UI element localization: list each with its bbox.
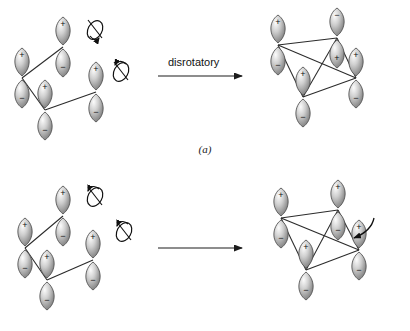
orbital-sign: − <box>303 285 308 295</box>
orbital-sign: + <box>353 50 358 60</box>
reaction-arrow-label-disrotatory: disrotatory <box>168 56 219 68</box>
rotation-arrow-left-a <box>84 18 106 42</box>
orbital-sign: − <box>334 10 339 20</box>
orbital-sign-inverted: + <box>335 182 340 192</box>
orbital-sign: + <box>93 64 98 74</box>
orbital-sign: + <box>334 53 339 63</box>
product-orbital-group-a <box>271 8 363 127</box>
orbital-sign: − <box>93 107 98 117</box>
orbital-sign: − <box>19 93 24 103</box>
product-bond-framework-b <box>281 210 359 270</box>
reactant-orbital-group-a <box>15 17 103 140</box>
panel-disrotatory: + − + − + − + − <box>0 0 410 170</box>
orbital-sign: + <box>303 242 308 252</box>
orbital-sign: + <box>19 50 24 60</box>
product-orbital-group-b <box>274 180 366 300</box>
panel-caption-a: (a) <box>0 143 410 155</box>
rotation-arrow-right-b <box>113 220 135 244</box>
orbital-sign: + <box>22 220 27 230</box>
orbital-sign: − <box>60 231 65 241</box>
orbital-sign: + <box>60 19 65 29</box>
panel-b-graphics: + − + − + − + − <box>0 170 410 331</box>
orbital-sign: − <box>278 233 283 243</box>
product-bond-framework-a <box>278 38 356 97</box>
orbital-sign: − <box>353 93 358 103</box>
orbital-sign: + <box>44 252 49 262</box>
orbital-sign: − <box>42 125 47 135</box>
orbital-sign: + <box>60 188 65 198</box>
orbital-sign: + <box>300 69 305 79</box>
orbital-sign-inverted: − <box>335 225 340 235</box>
orbital-sign: − <box>300 112 305 122</box>
reactant-orbital-group-b <box>18 186 100 310</box>
orbital-sign: − <box>22 263 27 273</box>
orbital-symmetry-figure: + − + − + − + − <box>0 0 410 331</box>
orbital-sign: − <box>44 295 49 305</box>
orbital-sign: − <box>60 62 65 72</box>
orbital-sign: + <box>42 82 47 92</box>
orbital-sign: − <box>356 265 361 275</box>
rotation-arrow-left-b <box>84 185 106 209</box>
panel-conrotatory: + − + − + − + − <box>0 170 410 331</box>
orbital-sign: + <box>90 232 95 242</box>
rotation-arrow-right-a <box>110 60 132 84</box>
orbital-sign: − <box>90 275 95 285</box>
orbital-sign: − <box>275 60 280 70</box>
orbital-sign: + <box>356 222 361 232</box>
orbital-sign: + <box>278 190 283 200</box>
orbital-sign: + <box>275 17 280 27</box>
